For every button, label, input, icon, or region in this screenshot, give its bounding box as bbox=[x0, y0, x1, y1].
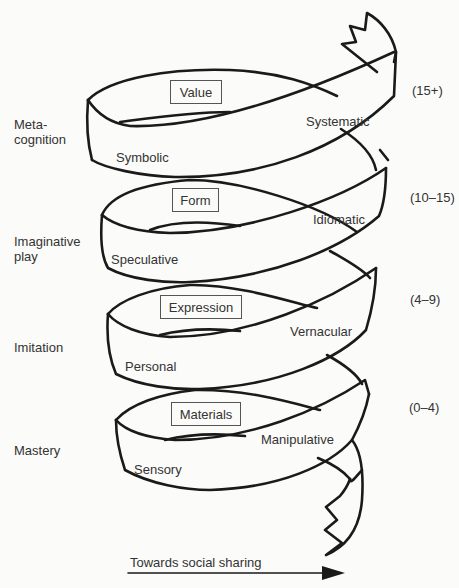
stage-box-materials: Materials bbox=[171, 402, 241, 426]
arrow-label: Towards social sharing bbox=[130, 555, 262, 570]
stage-box-value: Value bbox=[170, 80, 222, 104]
age-label-15-plus: (15+) bbox=[412, 83, 443, 98]
age-label-0-4: (0–4) bbox=[409, 400, 439, 415]
level-label-metacognition: Meta- cognition bbox=[14, 117, 66, 147]
band-label-personal: Personal bbox=[125, 359, 176, 374]
stage-box-form: Form bbox=[172, 188, 219, 212]
level-label-mastery: Mastery bbox=[14, 443, 60, 458]
band-label-manipulative: Manipulative bbox=[261, 432, 334, 447]
stage-box-expression: Expression bbox=[160, 295, 242, 319]
band-label-idiomatic: Idiomatic bbox=[313, 212, 365, 227]
arrow-head-icon bbox=[322, 566, 345, 580]
band-label-symbolic: Symbolic bbox=[116, 150, 169, 165]
band-label-systematic: Systematic bbox=[306, 114, 370, 129]
age-label-10-15: (10–15) bbox=[410, 190, 455, 205]
level-label-imitation: Imitation bbox=[14, 340, 63, 355]
band-label-vernacular: Vernacular bbox=[290, 324, 352, 339]
band-label-sensory: Sensory bbox=[134, 462, 182, 477]
age-label-4-9: (4–9) bbox=[410, 292, 440, 307]
band-label-speculative: Speculative bbox=[111, 252, 178, 267]
spiral-drawing bbox=[0, 0, 459, 588]
level-label-imaginative-play: Imaginative play bbox=[14, 234, 80, 264]
